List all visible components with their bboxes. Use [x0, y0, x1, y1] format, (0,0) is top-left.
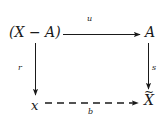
node-top-left: (X − A) — [9, 25, 61, 39]
commutative-diagram: (X − A) A x ~ X u r s b — [0, 0, 168, 124]
arrow-label-s: s — [152, 64, 156, 72]
node-top-right: A — [145, 25, 155, 39]
node-bottom-right-glyph: ~ X — [144, 93, 154, 107]
arrow-label-u: u — [87, 15, 92, 23]
arrow-label-r: r — [18, 64, 22, 72]
tilde-accent-icon: ~ — [144, 87, 154, 99]
node-bottom-right: ~ X — [144, 93, 154, 107]
arrow-label-b: b — [88, 108, 93, 116]
diagram-arrows-layer — [0, 0, 168, 124]
node-bottom-left: x — [31, 99, 38, 112]
